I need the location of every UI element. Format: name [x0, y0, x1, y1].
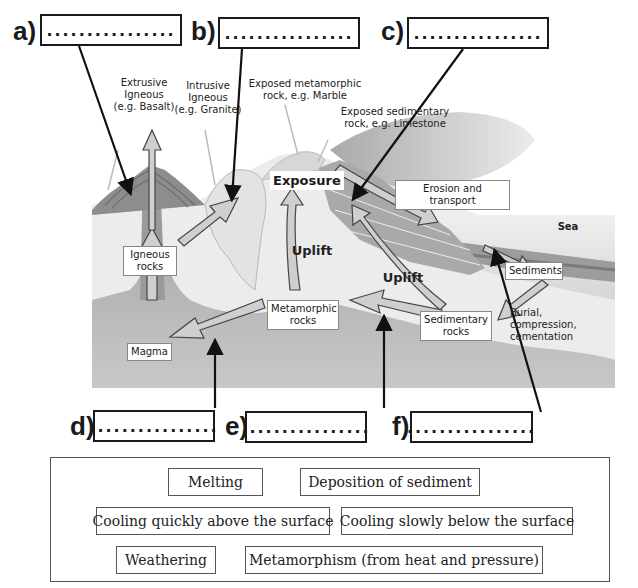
word-melting[interactable]: Melting — [168, 468, 263, 496]
exposed-metamorphic-label: Exposed metamorphic rock, e.g. Marble — [245, 78, 365, 102]
answer-box-d[interactable]: ................ — [93, 410, 215, 442]
sedimentary-rocks-box: Sedimentary rocks — [420, 311, 492, 341]
word-metamorphism[interactable]: Metamorphism (from heat and pressure) — [245, 546, 543, 574]
intrusive-igneous-label: Intrusive Igneous (e.g. Granite) — [168, 80, 248, 116]
exposure-box: Exposure — [270, 171, 344, 190]
answer-box-e[interactable]: ................ — [245, 411, 367, 443]
answer-box-f[interactable]: ................ — [410, 411, 533, 443]
word-cooling-quickly[interactable]: Cooling quickly above the surface — [96, 507, 330, 535]
uplift-label-1: Uplift — [287, 245, 337, 257]
word-weathering[interactable]: Weathering — [116, 546, 216, 574]
igneous-rocks-box: Igneous rocks — [123, 246, 177, 276]
metamorphic-rocks-box: Metamorphic rocks — [267, 300, 339, 330]
erosion-transport-box: Erosion and transport — [395, 180, 510, 210]
word-cooling-slowly[interactable]: Cooling slowly below the surface — [341, 507, 573, 535]
burial-label: Burial, compression, cementation — [510, 307, 590, 343]
exposed-sedimentary-label: Exposed sedimentary rock, e.g. Limestone — [335, 106, 455, 130]
sea-label: Sea — [553, 221, 583, 233]
word-deposition-of-sediment[interactable]: Deposition of sediment — [300, 468, 480, 496]
uplift-label-2: Uplift — [378, 272, 428, 284]
magma-box: Magma — [127, 343, 172, 361]
sediments-box: Sediments — [505, 262, 563, 280]
